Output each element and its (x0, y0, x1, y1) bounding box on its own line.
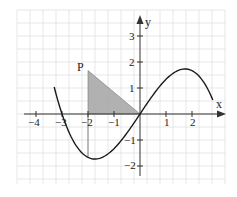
x-tick-label: 1 (164, 116, 170, 128)
y-axis-label: y (145, 15, 151, 29)
x-tick-label: −4 (28, 116, 40, 128)
y-tick-label: 1 (129, 82, 135, 94)
y-tick-label: 2 (129, 56, 135, 68)
y-axis-arrow-icon (137, 15, 144, 24)
x-tick-label: −1 (108, 116, 120, 128)
x-axis-label: x (216, 97, 222, 111)
x-tick-label: −2 (81, 116, 93, 128)
function-graph: x y −4 −3 −2 −1 1 2 3 2 1 −1 −2 P (0, 0, 237, 197)
x-tick-label: 2 (190, 116, 196, 128)
y-tick-label: −2 (124, 159, 136, 171)
y-tick-label: 3 (129, 30, 135, 42)
point-p-label: P (77, 60, 84, 74)
grid (17, 10, 225, 184)
